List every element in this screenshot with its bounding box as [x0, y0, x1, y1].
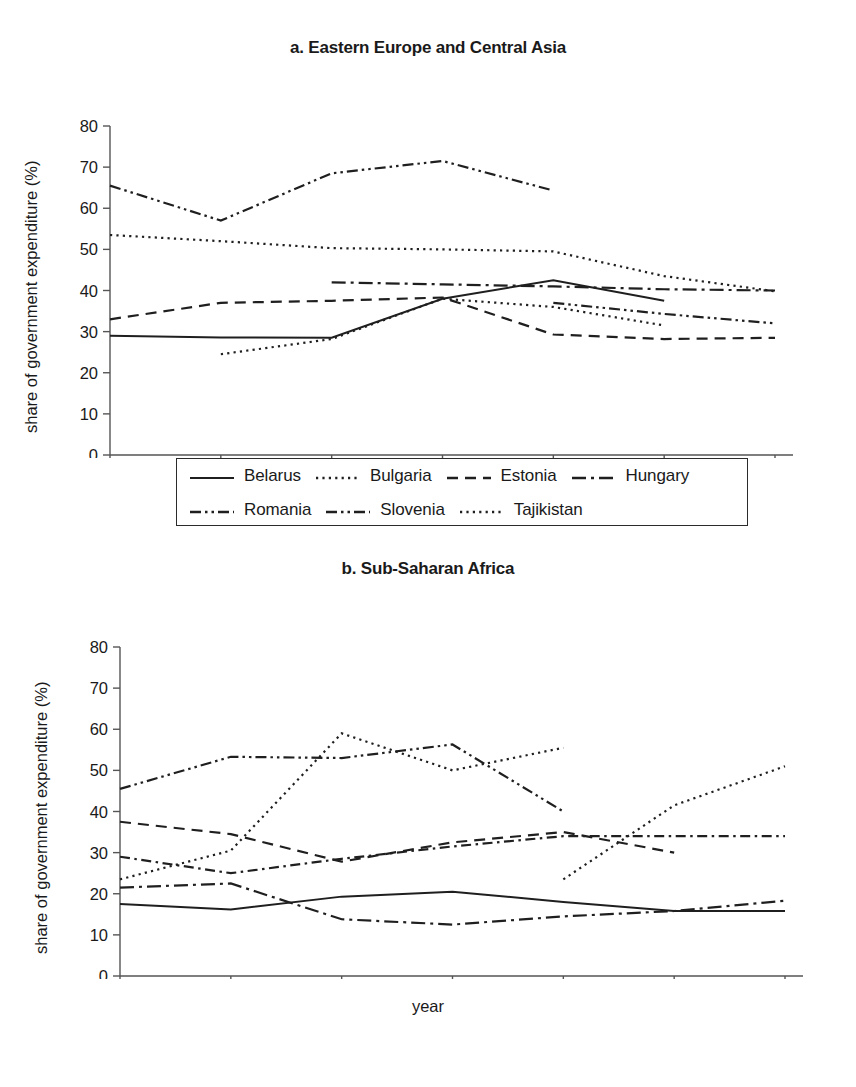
y-axis-tick-label: 20 [80, 364, 98, 382]
series-line [110, 161, 553, 221]
legend-line-swatch [459, 504, 505, 516]
series-line [120, 822, 674, 862]
series-line [110, 235, 775, 291]
legend-item-label: Estonia [501, 466, 557, 486]
chart-a-legend: BelarusBulgariaEstoniaHungaryRomaniaSlov… [176, 458, 748, 526]
series-line [563, 766, 785, 879]
series-line [120, 883, 785, 924]
chart-a-svg: 0102030405060708019981999200020012002200… [0, 58, 856, 458]
series-line [120, 892, 785, 911]
y-axis-tick-label: 60 [90, 720, 108, 738]
series-line [120, 836, 785, 873]
y-axis-tick-label: 50 [90, 761, 108, 779]
legend-item-label: Slovenia [380, 500, 444, 520]
legend-item-label: Romania [244, 500, 311, 520]
legend-item-label: Belarus [244, 466, 301, 486]
series-line [110, 297, 775, 339]
y-axis-tick-label: 40 [80, 282, 98, 300]
legend-row: BelarusBulgariaEstoniaHungary [177, 459, 747, 493]
legend-line-swatch [189, 470, 235, 482]
legend-item-slovenia[interactable]: Slovenia [325, 500, 444, 520]
panel-eastern-europe: a. Eastern Europe and Central Asia 01020… [0, 0, 856, 545]
legend-item-estonia[interactable]: Estonia [446, 466, 557, 486]
y-axis-tick-label: 40 [90, 803, 108, 821]
legend-item-bulgaria[interactable]: Bulgaria [315, 466, 432, 486]
legend-item-romania[interactable]: Romania [189, 500, 311, 520]
legend-item-label: Bulgaria [370, 466, 432, 486]
legend-line-swatch [189, 504, 235, 516]
chart-b-plot: 0102030405060708019981999200020012002200… [0, 579, 856, 979]
legend-item-label: Hungary [626, 466, 690, 486]
y-axis-tick-label: 10 [90, 926, 108, 944]
legend-line-swatch [446, 470, 492, 482]
legend-row: RomaniaSloveniaTajikistan [177, 493, 747, 527]
legend-item-tajikistan[interactable]: Tajikistan [459, 500, 583, 520]
series-line [120, 733, 563, 879]
chart-b-ylabel: share of government expenditure (%) [32, 682, 51, 954]
series-line [332, 282, 775, 290]
y-axis-tick-label: 50 [80, 240, 98, 258]
chart-a-plot: 0102030405060708019981999200020012002200… [0, 58, 856, 458]
y-axis-tick-label: 10 [80, 405, 98, 423]
series-line [110, 280, 664, 338]
y-axis-tick-label: 80 [90, 638, 108, 656]
series-line [553, 303, 775, 324]
chart-a-ylabel: share of government expenditure (%) [22, 161, 41, 433]
y-axis-tick-label: 70 [90, 679, 108, 697]
y-axis-tick-label: 30 [80, 323, 98, 341]
chart-b-svg: 0102030405060708019981999200020012002200… [0, 579, 856, 979]
y-axis-tick-label: 20 [90, 885, 108, 903]
series-line [120, 744, 563, 811]
y-axis-tick-label: 0 [89, 446, 98, 458]
legend-line-swatch [325, 504, 371, 516]
legend-item-belarus[interactable]: Belarus [189, 466, 301, 486]
chart-b-title: b. Sub-Saharan Africa [0, 545, 856, 579]
legend-item-label: Tajikistan [514, 500, 583, 520]
legend-line-swatch [571, 470, 617, 482]
chart-b-xlabel: year [0, 997, 856, 1016]
legend-item-hungary[interactable]: Hungary [571, 466, 690, 486]
legend-line-swatch [315, 470, 361, 482]
panel-sub-saharan-africa: b. Sub-Saharan Africa 010203040506070801… [0, 545, 856, 1087]
y-axis-tick-label: 60 [80, 199, 98, 217]
y-axis-tick-label: 80 [80, 117, 98, 135]
y-axis-tick-label: 70 [80, 158, 98, 176]
y-axis-tick-label: 0 [99, 967, 108, 979]
y-axis-tick-label: 30 [90, 844, 108, 862]
chart-a-title: a. Eastern Europe and Central Asia [0, 0, 856, 58]
